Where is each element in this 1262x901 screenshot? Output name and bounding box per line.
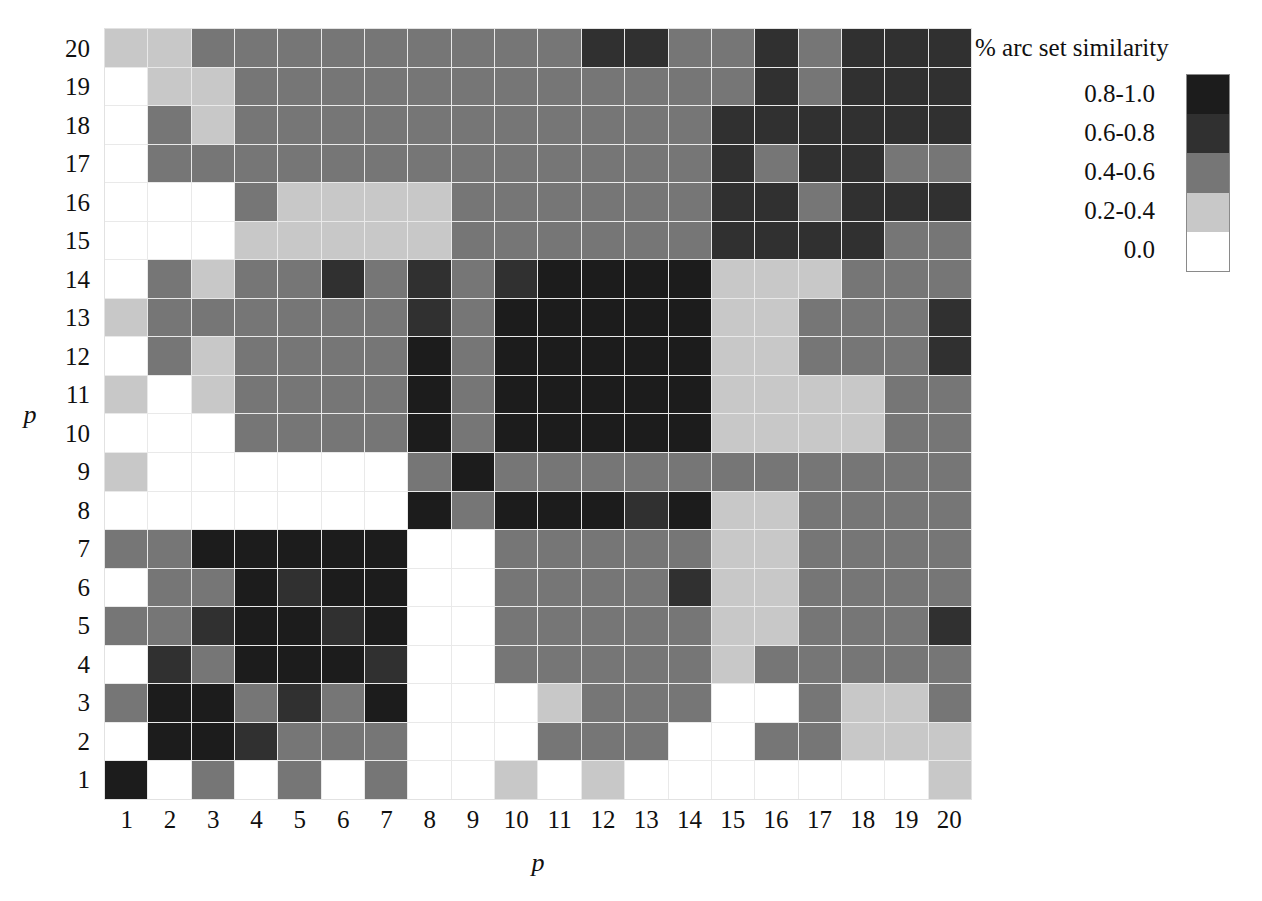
heatmap-cell[interactable]: [105, 569, 147, 607]
heatmap-cell[interactable]: [235, 145, 277, 183]
heatmap-cell[interactable]: [495, 684, 537, 722]
heatmap-cell[interactable]: [235, 376, 277, 414]
heatmap-cell[interactable]: [192, 260, 234, 298]
heatmap-cell[interactable]: [452, 646, 494, 684]
heatmap-cell[interactable]: [669, 453, 711, 491]
heatmap-cell[interactable]: [799, 145, 841, 183]
heatmap-cell[interactable]: [712, 29, 754, 67]
heatmap-cell[interactable]: [885, 337, 927, 375]
heatmap-cell[interactable]: [712, 414, 754, 452]
heatmap-cell[interactable]: [755, 453, 797, 491]
heatmap-cell[interactable]: [408, 29, 450, 67]
heatmap-cell[interactable]: [278, 492, 320, 530]
heatmap-cell[interactable]: [755, 260, 797, 298]
heatmap-cell[interactable]: [842, 684, 884, 722]
heatmap-cell[interactable]: [538, 145, 580, 183]
heatmap-cell[interactable]: [452, 607, 494, 645]
heatmap-cell[interactable]: [105, 530, 147, 568]
heatmap-cell[interactable]: [365, 68, 407, 106]
heatmap-cell[interactable]: [669, 260, 711, 298]
heatmap-cell[interactable]: [105, 684, 147, 722]
heatmap-cell[interactable]: [105, 761, 147, 799]
heatmap-cell[interactable]: [625, 607, 667, 645]
heatmap-cell[interactable]: [235, 492, 277, 530]
heatmap-cell[interactable]: [582, 260, 624, 298]
heatmap-cell[interactable]: [755, 646, 797, 684]
heatmap-cell[interactable]: [625, 492, 667, 530]
heatmap-cell[interactable]: [842, 723, 884, 761]
heatmap-cell[interactable]: [148, 337, 190, 375]
heatmap-cell[interactable]: [192, 607, 234, 645]
heatmap-cell[interactable]: [148, 376, 190, 414]
heatmap-cell[interactable]: [799, 337, 841, 375]
heatmap-cell[interactable]: [929, 684, 971, 722]
heatmap-cell[interactable]: [148, 106, 190, 144]
heatmap-cell[interactable]: [538, 646, 580, 684]
heatmap-cell[interactable]: [582, 414, 624, 452]
heatmap-cell[interactable]: [235, 414, 277, 452]
heatmap-cell[interactable]: [365, 761, 407, 799]
heatmap-cell[interactable]: [278, 299, 320, 337]
heatmap-cell[interactable]: [538, 337, 580, 375]
heatmap-cell[interactable]: [799, 29, 841, 67]
heatmap-cell[interactable]: [408, 414, 450, 452]
heatmap-cell[interactable]: [495, 376, 537, 414]
heatmap-cell[interactable]: [495, 530, 537, 568]
heatmap-cell[interactable]: [755, 337, 797, 375]
heatmap-cell[interactable]: [842, 761, 884, 799]
heatmap-cell[interactable]: [408, 222, 450, 260]
heatmap-cell[interactable]: [669, 29, 711, 67]
heatmap-cell[interactable]: [495, 607, 537, 645]
heatmap-cell[interactable]: [582, 607, 624, 645]
heatmap-cell[interactable]: [538, 492, 580, 530]
heatmap-cell[interactable]: [625, 414, 667, 452]
heatmap-cell[interactable]: [105, 607, 147, 645]
heatmap-cell[interactable]: [192, 145, 234, 183]
heatmap-cell[interactable]: [712, 761, 754, 799]
heatmap-cell[interactable]: [235, 106, 277, 144]
heatmap-cell[interactable]: [582, 723, 624, 761]
heatmap-cell[interactable]: [365, 337, 407, 375]
heatmap-cell[interactable]: [669, 492, 711, 530]
heatmap-cell[interactable]: [148, 68, 190, 106]
heatmap-cell[interactable]: [582, 68, 624, 106]
heatmap-cell[interactable]: [929, 299, 971, 337]
heatmap-cell[interactable]: [148, 530, 190, 568]
heatmap-cell[interactable]: [278, 723, 320, 761]
heatmap-cell[interactable]: [408, 607, 450, 645]
heatmap-cell[interactable]: [322, 337, 364, 375]
heatmap-cell[interactable]: [625, 723, 667, 761]
heatmap-cell[interactable]: [885, 260, 927, 298]
heatmap-cell[interactable]: [538, 68, 580, 106]
heatmap-cell[interactable]: [235, 183, 277, 221]
heatmap-cell[interactable]: [929, 260, 971, 298]
heatmap-cell[interactable]: [538, 453, 580, 491]
heatmap-cell[interactable]: [755, 29, 797, 67]
heatmap-cell[interactable]: [885, 68, 927, 106]
heatmap-cell[interactable]: [929, 414, 971, 452]
heatmap-cell[interactable]: [625, 145, 667, 183]
heatmap-cell[interactable]: [105, 106, 147, 144]
heatmap-cell[interactable]: [278, 29, 320, 67]
heatmap-cell[interactable]: [105, 492, 147, 530]
heatmap-cell[interactable]: [278, 607, 320, 645]
heatmap-cell[interactable]: [148, 569, 190, 607]
heatmap-cell[interactable]: [105, 299, 147, 337]
heatmap-cell[interactable]: [365, 260, 407, 298]
heatmap-cell[interactable]: [365, 530, 407, 568]
heatmap-cell[interactable]: [929, 68, 971, 106]
heatmap-cell[interactable]: [669, 761, 711, 799]
heatmap-cell[interactable]: [929, 222, 971, 260]
heatmap-cell[interactable]: [755, 299, 797, 337]
heatmap-cell[interactable]: [322, 183, 364, 221]
heatmap-cell[interactable]: [538, 106, 580, 144]
heatmap-cell[interactable]: [148, 684, 190, 722]
heatmap-cell[interactable]: [452, 299, 494, 337]
heatmap-cell[interactable]: [235, 29, 277, 67]
heatmap-cell[interactable]: [105, 414, 147, 452]
heatmap-cell[interactable]: [235, 299, 277, 337]
heatmap-cell[interactable]: [625, 646, 667, 684]
heatmap-cell[interactable]: [885, 106, 927, 144]
heatmap-cell[interactable]: [408, 68, 450, 106]
heatmap-cell[interactable]: [278, 569, 320, 607]
